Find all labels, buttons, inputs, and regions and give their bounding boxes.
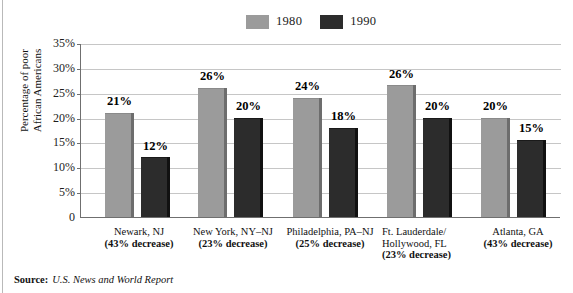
bar-newyork-1980 xyxy=(198,88,227,217)
y-tick-label-0: 0 xyxy=(19,210,75,225)
bar-value-ftlauderdale-1990: 20% xyxy=(413,99,462,114)
bar-value-newyork-1980: 26% xyxy=(188,69,237,84)
y-tick-mark-35 xyxy=(77,44,81,45)
y-tick-label-10: 10% xyxy=(19,160,75,175)
y-tick-label-35: 35% xyxy=(19,36,75,51)
y-tick-label-20: 20% xyxy=(19,111,75,126)
legend-swatch-1990-icon xyxy=(320,15,343,29)
bar-newark-1990 xyxy=(141,157,170,217)
bar-newark-1980 xyxy=(105,113,134,217)
gridline-35 xyxy=(81,44,561,45)
gridline-30 xyxy=(81,69,561,70)
bar-atlanta-1980 xyxy=(481,118,510,217)
legend-label-1980: 1980 xyxy=(276,14,302,29)
category-decrease-philadelphia: (25% decrease) xyxy=(272,238,388,250)
category-label-atlanta: Atlanta, GA (43% decrease) xyxy=(466,226,570,249)
legend-entry-1980: 1980 xyxy=(246,14,302,29)
bar-value-newark-1980: 21% xyxy=(95,94,144,109)
source-label: Source: xyxy=(14,274,48,285)
bar-value-ftlauderdale-1980: 26% xyxy=(377,67,426,82)
y-tick-mark-25 xyxy=(77,94,81,95)
bar-philadelphia-1980 xyxy=(293,98,322,217)
plot-area: 35% 30% 25% 20% 15% 10% 5% 0 21% 12% xyxy=(80,44,560,218)
bar-value-newark-1990: 12% xyxy=(131,139,180,154)
category-name-philadelphia: Philadelphia, PA–NJ xyxy=(272,226,388,238)
y-tick-mark-30 xyxy=(77,69,81,70)
category-name-atlanta: Atlanta, GA xyxy=(466,226,570,238)
chart-figure: 1980 1990 Percentage of poor African Ame… xyxy=(0,0,573,293)
bar-newyork-1990 xyxy=(234,118,263,217)
category-decrease-atlanta: (43% decrease) xyxy=(466,238,570,250)
legend-entry-1990: 1990 xyxy=(320,14,376,29)
bar-value-philadelphia-1980: 24% xyxy=(283,79,332,94)
bar-value-atlanta-1980: 20% xyxy=(471,99,520,114)
y-tick-label-5: 5% xyxy=(19,185,75,200)
y-tick-mark-20 xyxy=(77,119,81,120)
chart-legend: 1980 1990 xyxy=(246,14,376,29)
bar-atlanta-1990 xyxy=(517,140,546,217)
legend-swatch-1980-icon xyxy=(246,15,269,29)
bar-ftlauderdale-1980 xyxy=(387,85,416,217)
y-tick-label-15: 15% xyxy=(19,135,75,150)
bar-ftlauderdale-1990 xyxy=(423,118,452,217)
y-tick-label-25: 25% xyxy=(19,86,75,101)
category-decrease-ftlauderdale: (23% decrease) xyxy=(382,249,486,261)
y-tick-mark-15 xyxy=(77,143,81,144)
category-label-philadelphia: Philadelphia, PA–NJ (25% decrease) xyxy=(272,226,388,249)
bar-philadelphia-1990 xyxy=(329,128,358,218)
y-tick-mark-5 xyxy=(77,193,81,194)
source-value: U.S. News and World Report xyxy=(52,274,173,285)
bar-value-newyork-1990: 20% xyxy=(224,99,273,114)
bar-value-atlanta-1990: 15% xyxy=(507,121,556,136)
bar-value-philadelphia-1990: 18% xyxy=(319,109,368,124)
source-note: Source:U.S. News and World Report xyxy=(14,274,173,285)
y-tick-label-30: 30% xyxy=(19,61,75,76)
y-tick-mark-10 xyxy=(77,168,81,169)
figure-left-rule xyxy=(2,0,3,293)
legend-label-1990: 1990 xyxy=(350,14,376,29)
